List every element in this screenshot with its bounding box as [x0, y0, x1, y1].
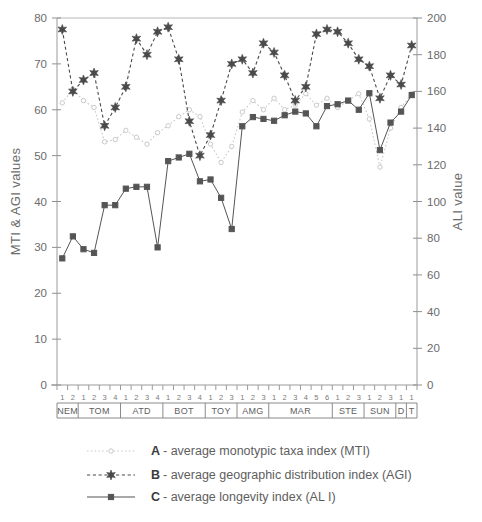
legend-key-B: B	[151, 468, 160, 482]
series-marker-B	[323, 24, 332, 34]
y-tick-label-left: 80	[34, 12, 47, 24]
x-subtick-label: 3	[293, 393, 297, 402]
y-axis-label-left: MTI & AGI values	[8, 148, 23, 256]
series-marker-C	[367, 91, 372, 96]
series-marker-C	[219, 195, 224, 200]
x-subtick-label: 1	[81, 393, 85, 402]
y-tick-label-left: 10	[34, 333, 47, 345]
legend-label-A: - average monotypic taxa index (MTI)	[163, 444, 370, 458]
x-subtick-label: 2	[219, 393, 223, 402]
y-tick-label-right: 0	[427, 379, 433, 391]
y-tick-label-right: 100	[427, 196, 446, 208]
x-subtick-label: 3	[388, 393, 392, 402]
x-subtick-label: 5	[314, 393, 318, 402]
series-marker-C	[123, 186, 128, 191]
series-marker-B	[143, 50, 152, 60]
y-tick-label-left: 40	[34, 196, 47, 208]
series-marker-A	[314, 103, 318, 107]
x-subtick-label: 2	[134, 393, 138, 402]
x-subtick-label: 4	[113, 393, 117, 402]
series-marker-A	[134, 135, 138, 139]
series-marker-B	[132, 34, 141, 44]
series-marker-B	[270, 47, 279, 57]
series-marker-B	[90, 68, 99, 78]
x-subtick-label: 2	[92, 393, 96, 402]
series-marker-A	[92, 105, 96, 109]
series-marker-C	[91, 250, 96, 255]
y-tick-label-right: 200	[427, 12, 446, 24]
x-subtick-label: 2	[251, 393, 255, 402]
series-marker-A	[81, 98, 85, 102]
x-subtick-label: 1	[208, 393, 212, 402]
y-tick-label-right: 80	[427, 232, 440, 244]
series-line-A	[62, 89, 411, 167]
series-marker-C	[102, 203, 107, 208]
x-group-label: NEM	[57, 406, 78, 416]
series-marker-C	[271, 118, 276, 123]
series-marker-C	[155, 245, 160, 250]
series-marker-A	[325, 96, 329, 100]
x-group-label: D	[398, 406, 405, 416]
x-subtick-label: 1	[336, 393, 340, 402]
series-marker-C	[377, 148, 382, 153]
series-marker-A	[166, 124, 170, 128]
series-marker-C	[314, 124, 319, 129]
series-marker-C	[134, 184, 139, 189]
series-marker-B	[100, 121, 109, 131]
x-subtick-label: 1	[240, 393, 244, 402]
series-marker-C	[60, 256, 65, 261]
series-marker-B	[206, 130, 215, 140]
x-group-label: T	[409, 406, 415, 416]
series-marker-A	[155, 130, 159, 134]
series-marker-B	[217, 96, 226, 106]
x-subtick-label: 2	[283, 393, 287, 402]
legend-marker-B	[107, 470, 116, 480]
figure-root: 0102030405060708002040608010012014016018…	[0, 0, 482, 522]
series-marker-B	[164, 22, 173, 32]
x-subtick-label: 4	[198, 393, 202, 402]
legend-marker-C	[108, 494, 113, 499]
legend-label-B: - average geographic distribution index …	[163, 468, 412, 482]
series-marker-B	[69, 86, 78, 96]
x-subtick-label: 1	[272, 393, 276, 402]
y-tick-label-left: 20	[34, 287, 47, 299]
series-marker-B	[312, 29, 321, 39]
series-marker-B	[397, 80, 406, 90]
x-subtick-label: 3	[261, 393, 265, 402]
legend-label-C: - average longevity index (AL I)	[163, 490, 336, 504]
x-group-label: TOY	[211, 406, 230, 416]
series-marker-B	[301, 82, 310, 92]
chart-svg: 0102030405060708002040608010012014016018…	[0, 0, 482, 522]
y-tick-label-right: 160	[427, 85, 446, 97]
series-marker-C	[346, 98, 351, 103]
x-group-label: AMG	[242, 406, 263, 416]
series-marker-B	[407, 41, 416, 51]
series-marker-C	[293, 109, 298, 114]
series-marker-A	[251, 98, 255, 102]
series-marker-A	[177, 114, 181, 118]
x-subtick-label: 3	[230, 393, 234, 402]
series-marker-C	[240, 124, 245, 129]
series-marker-A	[145, 142, 149, 146]
series-marker-B	[365, 61, 374, 71]
x-subtick-label: 1	[124, 393, 128, 402]
series-marker-C	[176, 155, 181, 160]
x-subtick-label: 2	[346, 393, 350, 402]
y-tick-label-right: 180	[427, 49, 446, 61]
x-subtick-label: 4	[304, 393, 308, 402]
series-marker-C	[187, 151, 192, 156]
series-marker-A	[60, 101, 64, 105]
x-subtick-label: 2	[177, 393, 181, 402]
x-group-label: SUN	[370, 406, 390, 416]
series-marker-C	[197, 179, 202, 184]
series-marker-B	[79, 75, 88, 85]
x-subtick-label: 2	[71, 393, 75, 402]
series-marker-B	[121, 82, 130, 92]
x-subtick-label: 3	[357, 393, 361, 402]
legend-key-C: C	[151, 490, 160, 504]
y-tick-label-right: 140	[427, 122, 446, 134]
y-tick-label-left: 0	[41, 379, 47, 391]
series-marker-C	[388, 120, 393, 125]
series-marker-B	[386, 70, 395, 80]
series-marker-A	[357, 91, 361, 95]
